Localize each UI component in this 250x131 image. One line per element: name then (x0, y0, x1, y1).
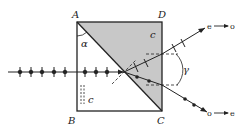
svg-text:e: e (207, 22, 212, 31)
vertex-d-label: D (157, 9, 166, 20)
vertex-c-label: C (157, 115, 165, 126)
upper-output-label: e o (207, 22, 235, 31)
gamma-label: γ (183, 64, 189, 75)
incident-polarization-marks (18, 67, 109, 77)
axis-left-label: c (88, 94, 94, 105)
lower-arrow (200, 107, 207, 112)
alpha-label: α (81, 38, 88, 49)
alpha-arc (77, 32, 87, 36)
lower-output-label: o e (207, 109, 235, 118)
svg-text:o: o (230, 22, 235, 31)
svg-text:o: o (207, 109, 212, 118)
axis-right-label: c (150, 29, 156, 40)
vertex-a-label: A (71, 9, 79, 20)
upper-arrow (198, 28, 205, 33)
vertex-b-label: B (67, 115, 75, 126)
upper-beam-outside (162, 28, 205, 54)
optic-axis-left (81, 85, 84, 104)
svg-text:e: e (230, 109, 235, 118)
prism-diagram: e o o e A D B C α γ c c (0, 0, 250, 131)
